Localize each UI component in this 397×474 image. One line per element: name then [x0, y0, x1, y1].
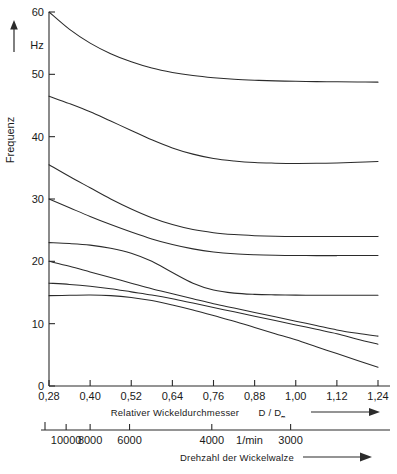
- y-tick-label: 50: [32, 68, 44, 80]
- curve-curve-7: [49, 283, 378, 344]
- secondary-tick-label: 1/min: [236, 434, 263, 446]
- curve-curve-3: [49, 165, 378, 237]
- x-tick-label: 0,40: [79, 390, 100, 402]
- secondary-tick-label: 10000: [51, 434, 82, 446]
- x-tick-label: 1,24: [367, 390, 388, 402]
- secondary-tick-label: 4000: [200, 434, 224, 446]
- y-tick-label: 40: [32, 131, 44, 143]
- secondary-axis-tick-marks: [45, 422, 291, 430]
- secondary-x-axis-arrow: [303, 453, 372, 462]
- secondary-tick-label: 8000: [78, 434, 102, 446]
- x-axis-tick-labels: 0,280,400,520,640,760,881,001,121,24: [38, 390, 388, 402]
- x-tick-label: 0,64: [162, 390, 183, 402]
- x-tick-label: 0,76: [203, 390, 224, 402]
- secondary-axis-tick-labels: 100008000600040001/min3000: [51, 434, 303, 446]
- x-axis-title: Relativer Wickeldurchmesser: [111, 407, 239, 418]
- y-axis-unit: Hz: [30, 39, 43, 51]
- x-axis-tick-marks: [49, 380, 378, 386]
- secondary-tick-label: 3000: [278, 434, 302, 446]
- x-tick-label: 0,52: [121, 390, 142, 402]
- x-tick-label: 0,88: [244, 390, 265, 402]
- curve-curve-2: [49, 96, 378, 163]
- x-tick-label: 0,28: [38, 390, 59, 402]
- curve-curve-1: [49, 12, 378, 82]
- curve-curve-4: [49, 199, 378, 256]
- secondary-tick-label: 6000: [117, 434, 141, 446]
- x-axis-arrow: [311, 408, 380, 416]
- secondary-x-axis-title: Drehzahl der Wickelwalze: [180, 452, 294, 463]
- y-axis-tick-labels: 0102030405060: [32, 6, 44, 392]
- curve-curve-8: [49, 295, 378, 367]
- y-tick-label: 30: [32, 193, 44, 205]
- curve-group: [49, 12, 378, 367]
- y-axis-arrow: [10, 20, 18, 52]
- x-axis-symbol: D / Dₘ: [259, 407, 286, 419]
- y-axis-title: Frequenz: [4, 117, 16, 163]
- x-tick-label: 1,00: [285, 390, 306, 402]
- chart-svg: 0102030405060 0,280,400,520,640,760,881,…: [0, 0, 397, 474]
- frequency-diagram: 0102030405060 0,280,400,520,640,760,881,…: [0, 0, 397, 474]
- y-tick-label: 60: [32, 6, 44, 18]
- y-tick-label: 20: [32, 255, 44, 267]
- curve-curve-6: [49, 261, 378, 336]
- x-tick-label: 1,12: [326, 390, 347, 402]
- y-tick-label: 10: [32, 318, 44, 330]
